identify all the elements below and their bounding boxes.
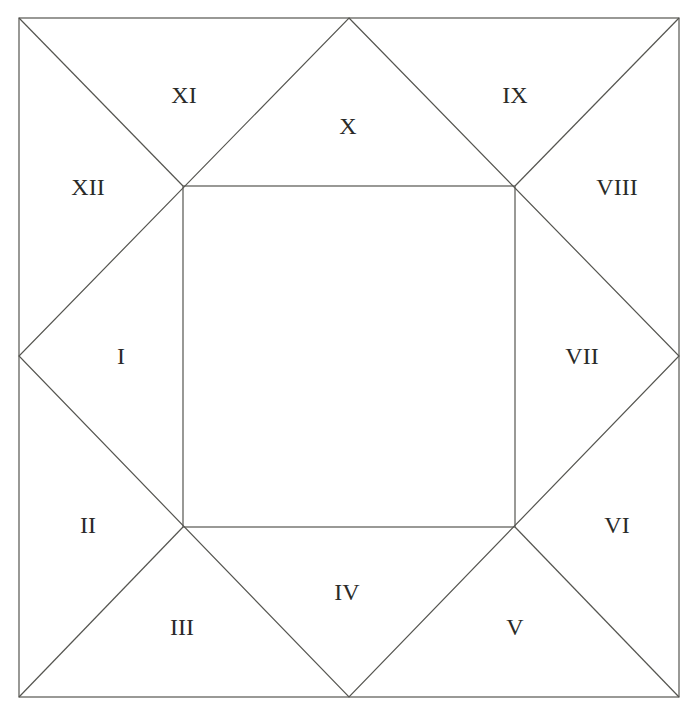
house-label-7: VII [565, 343, 598, 369]
house-label-3: III [170, 614, 194, 640]
house-label-4: IV [334, 579, 360, 605]
house-label-11: XI [171, 82, 196, 108]
house-label-12: XII [71, 174, 104, 200]
house-label-8: VIII [596, 174, 637, 200]
diagonal-top-right [515, 18, 679, 186]
house-label-2: II [80, 512, 96, 538]
house-label-10: X [339, 113, 356, 139]
house-label-6: VI [604, 512, 629, 538]
diagonal-bottom-right [515, 527, 679, 697]
house-label-5: V [506, 614, 524, 640]
house-chart-diagram: I II III IV V VI VII VIII IX X XI XII [0, 0, 693, 714]
house-label-1: I [117, 343, 125, 369]
diagonal-top-left [19, 18, 183, 186]
inner-square [183, 186, 515, 527]
diagonal-bottom-left [19, 527, 183, 697]
house-label-9: IX [502, 82, 527, 108]
